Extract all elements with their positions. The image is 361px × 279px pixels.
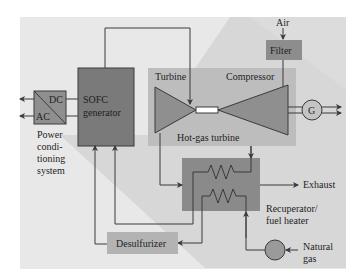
- turbine-label: Turbine: [155, 71, 187, 82]
- filter-label: Filter: [270, 45, 292, 56]
- ac-label: AC: [36, 111, 50, 122]
- desulfurizer-label: Desulfurizer: [116, 238, 167, 249]
- dc-label: DC: [49, 94, 63, 105]
- generator-label: G: [308, 105, 315, 116]
- sofc-system-diagram: DC AC Power condi- tioning system SOFC g…: [0, 0, 361, 279]
- compressor-label: Compressor: [226, 71, 275, 82]
- power-conditioning-caption-4: system: [37, 165, 65, 176]
- air-label: Air: [276, 17, 290, 28]
- power-conditioning-caption-2: condi-: [37, 141, 63, 152]
- natural-gas-label-2: gas: [303, 253, 316, 264]
- hot-gas-turbine-label: Hot-gas turbine: [177, 132, 240, 143]
- power-conditioning-caption-1: Power: [37, 129, 63, 140]
- exhaust-label: Exhaust: [303, 179, 335, 190]
- power-conditioning-caption-3: tioning: [37, 153, 65, 164]
- sofc-label-2: generator: [83, 107, 121, 118]
- natural-gas-circle: [265, 240, 285, 260]
- recuperator-label-1: Recuperator/: [266, 203, 318, 214]
- natural-gas-label-1: Natural: [303, 241, 333, 252]
- shaft: [196, 107, 218, 113]
- recuperator-label-2: fuel heater: [266, 215, 309, 226]
- sofc-label-1: SOFC: [83, 94, 108, 105]
